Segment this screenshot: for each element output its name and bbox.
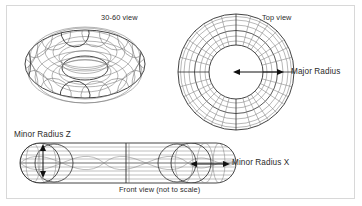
panel-perspective-torus [16,13,153,114]
label-view-3060: 30-60 view [101,14,138,21]
label-view-front: Front view (not to scale) [119,186,200,193]
major-radius-arrow [233,69,284,75]
minor-radius-z-arrow [40,144,46,178]
diagram-page: 30-60 view Top view Major Radius Minor R… [0,0,362,206]
label-minor-radius-x: Minor Radius X [232,159,289,167]
panel-top-view [168,4,304,140]
torus-diagram-svg [0,0,362,206]
label-minor-radius-z: Minor Radius Z [14,131,71,139]
panel-front-view [20,143,236,183]
label-view-top: Top view [262,14,292,21]
label-major-radius: Major Radius [291,68,340,76]
minor-radius-x-arrow [190,161,230,167]
